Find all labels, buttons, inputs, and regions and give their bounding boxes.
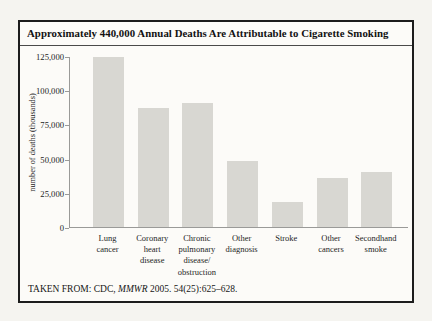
bar-stroke: [272, 202, 303, 227]
y-tick-mark: [65, 228, 69, 229]
source-journal: MMWR: [118, 284, 148, 294]
x-category-label: Secondhandsmoke: [348, 233, 404, 255]
source-suffix: 2005. 54(25):625–628.: [148, 284, 238, 294]
plot-area: [69, 57, 408, 228]
y-tick-label: 75,000: [22, 120, 64, 130]
y-tick-mark: [65, 91, 69, 92]
y-tick-mark: [65, 194, 69, 195]
y-tick-label: 0: [22, 223, 64, 233]
bar-other-cancers: [317, 178, 348, 227]
bar-other-diagnosis: [227, 161, 258, 227]
figure-box: Approximately 440,000 Annual Deaths Are …: [18, 20, 414, 303]
title-divider: [20, 45, 412, 46]
y-tick-label: 50,000: [22, 155, 64, 165]
y-tick-label: 25,000: [22, 189, 64, 199]
source-citation: TAKEN FROM: CDC, MMWR 2005. 54(25):625–6…: [28, 284, 237, 294]
y-tick-mark: [65, 160, 69, 161]
y-axis-label: number of deaths (thousands): [28, 83, 39, 203]
bar-coronary-heart-disease: [138, 108, 169, 227]
figure-title: Approximately 440,000 Annual Deaths Are …: [27, 27, 388, 39]
source-prefix: TAKEN FROM: CDC,: [28, 284, 118, 294]
bar-lung-cancer: [93, 57, 124, 227]
bar-secondhand-smoke: [361, 172, 392, 227]
bar-chronic-pulmonary-disease-obstruction: [182, 103, 213, 227]
y-tick-label: 100,000: [22, 86, 64, 96]
y-tick-mark: [65, 125, 69, 126]
y-tick-label: 125,000: [22, 52, 64, 62]
page: { "figure": { "title": "Approximately 44…: [0, 0, 432, 321]
y-tick-mark: [65, 57, 69, 58]
